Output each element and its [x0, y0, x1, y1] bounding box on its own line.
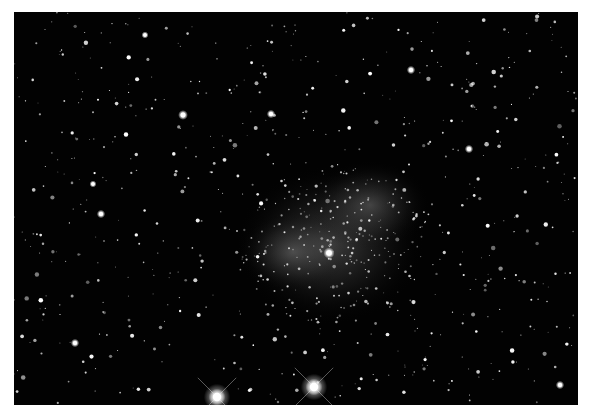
astronomical-photo: [14, 12, 578, 405]
galaxy-glow: [235, 160, 430, 325]
star-field: [14, 12, 578, 405]
